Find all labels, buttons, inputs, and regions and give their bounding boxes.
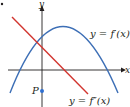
point-p-label: P	[31, 85, 39, 96]
f-double-prime-label: y = f″(x)	[68, 95, 110, 106]
derivative-graph: x y P y = f′(x) y = f″(x)	[0, 0, 130, 107]
bullet-mark	[1, 3, 3, 5]
f-double-prime-line	[12, 17, 88, 94]
y-axis-label: y	[38, 0, 45, 9]
point-p	[40, 89, 44, 93]
x-axis-label: x	[125, 65, 130, 75]
f-prime-label: y = f′(x)	[89, 28, 130, 39]
